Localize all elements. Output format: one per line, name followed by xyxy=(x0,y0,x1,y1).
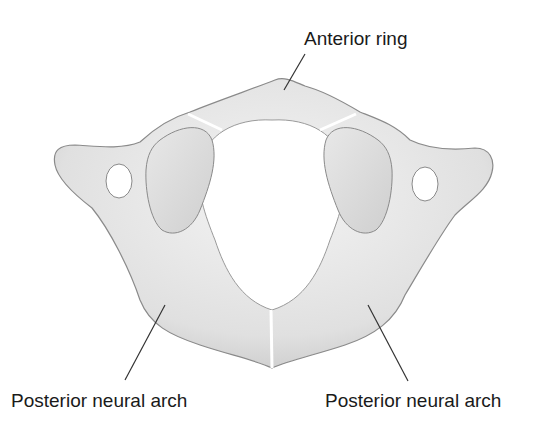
posterior-midline-junction xyxy=(271,310,272,368)
leader-posterior-left xyxy=(125,305,165,380)
label-posterior-neural-arch-right: Posterior neural arch xyxy=(325,391,501,410)
label-posterior-neural-arch-left: Posterior neural arch xyxy=(11,391,187,410)
atlas-vertebra-illustration xyxy=(0,0,536,431)
label-anterior-ring: Anterior ring xyxy=(304,29,408,48)
left-transverse-foramen xyxy=(106,164,132,198)
right-transverse-foramen xyxy=(412,167,438,201)
